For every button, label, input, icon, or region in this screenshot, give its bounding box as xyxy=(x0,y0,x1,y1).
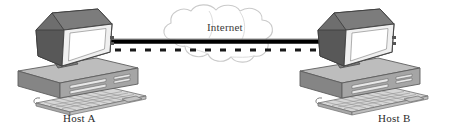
network-diagram: Internet Host A Host B xyxy=(0,0,456,130)
host-a-label: Host A xyxy=(63,112,96,124)
host-b-computer-icon xyxy=(0,0,456,130)
host-b-label: Host B xyxy=(378,112,411,124)
internet-cloud-label: Internet xyxy=(207,21,243,33)
